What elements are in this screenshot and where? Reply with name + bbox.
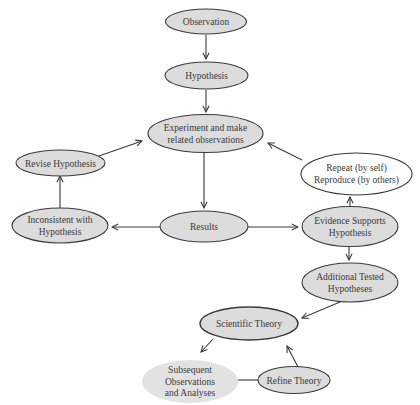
node-label: Repeat (by self) [326,163,387,174]
svg-text:Refine Theory: Refine Theory [267,376,322,386]
svg-text:Repeat (by self): Repeat (by self) [326,163,387,174]
node-experiment: Experiment and make related observations [148,115,263,153]
svg-text:Hypothesis: Hypothesis [185,71,228,81]
node-label: related observations [167,135,244,145]
svg-text:Revise Hypothesis: Revise Hypothesis [25,159,96,169]
svg-text:Subsequent: Subsequent [168,365,212,375]
svg-text:Observation: Observation [183,17,230,27]
svg-text:related observations: related observations [167,135,244,145]
svg-text:Reproduce (by others): Reproduce (by others) [314,175,399,186]
svg-text:Hypotheses: Hypotheses [328,284,373,294]
node-label: Revise Hypothesis [25,159,96,169]
edge-repeat-experiment [268,143,302,160]
node-revise-hypothesis: Revise Hypothesis [16,150,105,176]
node-subsequent-observations: Subsequent Observations and Analyses [142,360,238,403]
node-label: Hypothesis [329,228,372,238]
svg-text:Scientific Theory: Scientific Theory [216,319,282,329]
node-scientific-theory: Scientific Theory [200,307,298,340]
node-label: Hypotheses [328,284,373,294]
svg-text:Evidence Supports: Evidence Supports [314,216,386,226]
node-label: Scientific Theory [216,319,282,329]
edge-additional-theory [302,302,340,318]
node-label: and Analyses [165,388,216,398]
node-label: Inconsistent with [27,215,92,225]
node-results: Results [160,211,248,242]
svg-text:Results: Results [190,222,218,232]
node-refine-theory: Refine Theory [258,367,330,394]
node-hypothesis: Hypothesis [165,62,248,89]
node-label: Experiment and make [164,123,247,133]
node-label: Additional Tested [316,272,384,282]
node-label: Hypothesis [185,71,228,81]
edge-revise-experiment [96,141,142,157]
node-label: Results [190,222,218,232]
svg-text:Additional Tested: Additional Tested [316,272,384,282]
node-label: Observation [183,17,230,27]
node-label: Observations [165,377,215,387]
node-repeat-reproduce: Repeat (by self) Reproduce (by others) [301,153,412,195]
node-additional-tested: Additional Tested Hypotheses [302,263,398,302]
edge-refine-theory [287,346,298,367]
node-observation: Observation [166,9,247,34]
svg-text:Inconsistent with: Inconsistent with [27,215,92,225]
svg-text:Hypothesis: Hypothesis [39,227,82,237]
node-label: Subsequent [168,365,212,375]
svg-text:Experiment and make: Experiment and make [164,123,247,133]
svg-text:Observations: Observations [165,377,215,387]
node-label: Refine Theory [267,376,322,386]
node-label: Evidence Supports [314,216,386,226]
node-label: Hypothesis [39,227,82,237]
node-label: Reproduce (by others) [314,175,399,186]
node-inconsistent: Inconsistent with Hypothesis [12,208,108,243]
edge-theory-subsequent [201,339,213,352]
scientific-method-diagram: Observation Hypothesis Experiment and ma… [0,0,420,405]
svg-text:Hypothesis: Hypothesis [329,228,372,238]
svg-text:and Analyses: and Analyses [165,388,216,398]
node-evidence-supports: Evidence Supports Hypothesis [302,207,398,247]
